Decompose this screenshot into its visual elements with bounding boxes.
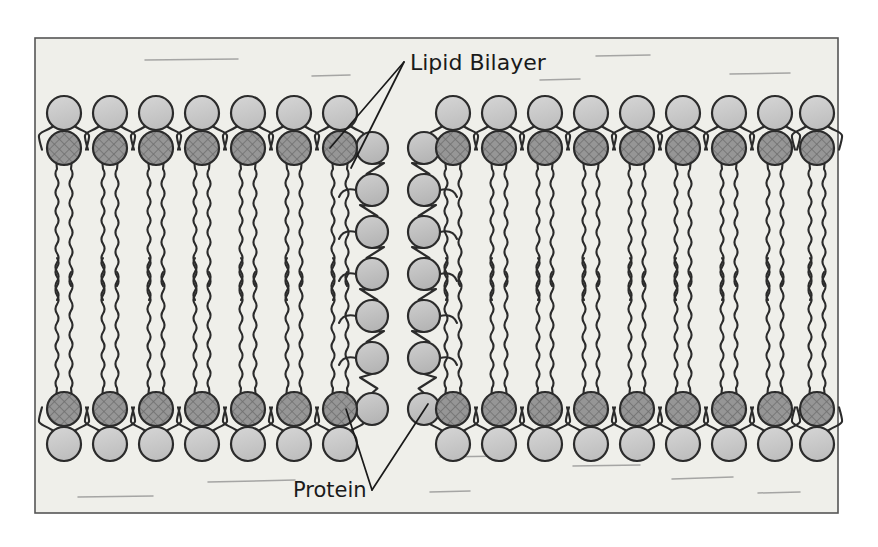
lipid-head-outer	[231, 427, 265, 461]
lipid-head-outer	[277, 96, 311, 130]
lipid-head-inner	[93, 131, 127, 165]
lipid-head-inner	[758, 392, 792, 426]
lipid-head-outer	[574, 427, 608, 461]
smudge-11	[758, 492, 800, 493]
smudge-1	[145, 59, 238, 60]
lipid-head-inner	[482, 392, 516, 426]
label-protein: Protein	[293, 478, 367, 502]
lipid-head-outer	[436, 427, 470, 461]
lipid-head-inner	[800, 392, 834, 426]
lipid-head-inner	[528, 392, 562, 426]
protein-bead	[356, 393, 388, 425]
lipid-head-inner	[666, 131, 700, 165]
lipid-head-inner	[47, 392, 81, 426]
lipid-head-outer	[277, 427, 311, 461]
lipid-head-outer	[574, 96, 608, 130]
protein-bead	[408, 174, 440, 206]
lipid-head-inner	[185, 131, 219, 165]
lipid-head-outer	[323, 96, 357, 130]
lipid-head-inner	[620, 131, 654, 165]
lipid-head-inner	[482, 131, 516, 165]
lipid-head-inner	[620, 392, 654, 426]
lipid-head-outer	[666, 427, 700, 461]
lipid-head-inner	[139, 131, 173, 165]
lipid-head-outer	[528, 96, 562, 130]
smudge-9	[78, 496, 153, 497]
protein-bead	[356, 300, 388, 332]
lipid-head-inner	[712, 131, 746, 165]
lipid-head-outer	[666, 96, 700, 130]
smudge-5	[540, 79, 580, 80]
lipid-head-outer	[800, 96, 834, 130]
lipid-head-outer	[758, 427, 792, 461]
smudge-2	[312, 75, 350, 76]
lipid-bilayer-diagram: Lipid Bilayer Protein	[0, 0, 878, 547]
lipid-head-outer	[323, 427, 357, 461]
lipid-head-outer	[93, 96, 127, 130]
lipid-head-inner	[800, 131, 834, 165]
protein-bead	[408, 300, 440, 332]
protein-bead	[356, 216, 388, 248]
lipid-head-outer	[482, 96, 516, 130]
lipid-head-inner	[323, 392, 357, 426]
lipid-head-outer	[47, 427, 81, 461]
lipid-head-inner	[185, 392, 219, 426]
protein-bead	[408, 216, 440, 248]
lipid-head-outer	[620, 427, 654, 461]
lipid-head-inner	[528, 131, 562, 165]
lipid-head-outer	[185, 96, 219, 130]
lipid-head-outer	[800, 427, 834, 461]
protein-bead	[356, 258, 388, 290]
lipid-head-outer	[528, 427, 562, 461]
lipid-head-inner	[277, 131, 311, 165]
lipid-head-outer	[231, 96, 265, 130]
lipid-head-inner	[231, 131, 265, 165]
protein-bead	[408, 258, 440, 290]
lipid-head-outer	[758, 96, 792, 130]
protein-bead	[356, 342, 388, 374]
figure-canvas: Lipid Bilayer Protein	[0, 0, 878, 547]
lipid-head-inner	[436, 131, 470, 165]
lipid-head-outer	[620, 96, 654, 130]
lipid-head-inner	[436, 392, 470, 426]
smudge-3	[596, 55, 650, 56]
label-lipid-bilayer: Lipid Bilayer	[410, 50, 547, 75]
lipid-head-inner	[758, 131, 792, 165]
protein-bead	[356, 174, 388, 206]
lipid-head-outer	[712, 427, 746, 461]
lipid-head-outer	[47, 96, 81, 130]
smudge-10	[430, 491, 470, 492]
lipid-head-outer	[712, 96, 746, 130]
lipid-head-inner	[666, 392, 700, 426]
lipid-head-outer	[482, 427, 516, 461]
lipid-head-inner	[93, 392, 127, 426]
lipid-head-outer	[139, 427, 173, 461]
lipid-head-outer	[93, 427, 127, 461]
lipid-head-inner	[574, 392, 608, 426]
lipid-head-inner	[47, 131, 81, 165]
lipid-head-outer	[139, 96, 173, 130]
lipid-head-inner	[277, 392, 311, 426]
protein-bead	[408, 342, 440, 374]
lipid-head-inner	[574, 131, 608, 165]
lipid-head-outer	[436, 96, 470, 130]
lipid-head-inner	[139, 392, 173, 426]
lipid-head-inner	[712, 392, 746, 426]
smudge-4	[730, 73, 790, 74]
smudge-7	[573, 465, 640, 466]
lipid-head-outer	[185, 427, 219, 461]
lipid-head-inner	[231, 392, 265, 426]
